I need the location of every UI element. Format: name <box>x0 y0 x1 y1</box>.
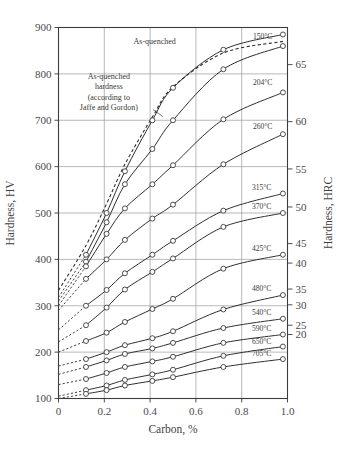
data-point-marker <box>171 85 176 90</box>
series-dashed-extension <box>59 255 86 298</box>
hrc-axis-tick-label: 30 <box>296 299 308 311</box>
data-point-marker <box>150 378 155 383</box>
data-point-marker <box>171 354 176 359</box>
data-point-marker <box>280 191 285 196</box>
data-point-marker <box>104 370 109 375</box>
data-point-marker <box>171 375 176 380</box>
data-point-marker <box>122 377 127 382</box>
data-point-marker <box>221 353 226 358</box>
series-curve <box>86 359 283 394</box>
series-label-layer: 150°C204°C260°C315°C370°C425°C480°C540°C… <box>252 32 272 358</box>
data-point-marker <box>280 332 285 337</box>
series-label-315c: 315°C <box>252 183 271 192</box>
annotation-jaffe-gordon-line: As-quenched <box>88 72 130 81</box>
data-point-marker <box>122 169 127 174</box>
data-point-marker <box>83 303 88 308</box>
y-axis-tick-label: 200 <box>35 346 52 358</box>
data-point-marker <box>171 118 176 123</box>
data-point-marker <box>150 269 155 274</box>
data-point-marker <box>171 238 176 243</box>
data-point-marker <box>221 117 226 122</box>
data-point-marker <box>221 162 226 167</box>
data-point-marker <box>280 44 285 49</box>
data-point-marker <box>104 220 109 225</box>
data-point-marker <box>83 364 88 369</box>
data-point-marker <box>280 293 285 298</box>
x-axis-tick-label: 0 <box>56 405 62 417</box>
y-axis-title: Hardness, HV <box>4 180 17 246</box>
data-point-marker <box>83 252 88 257</box>
hrc-axis-tick-label: 50 <box>296 201 308 213</box>
hrc-axis-tick-label: 60 <box>296 115 308 127</box>
x-axis-tick-label: 1.0 <box>281 405 295 417</box>
series-label-540c: 540°C <box>252 308 271 317</box>
data-point-marker <box>122 364 127 369</box>
series-curve <box>86 34 283 254</box>
series-label-480c: 480°C <box>252 284 271 293</box>
data-point-marker <box>221 224 226 229</box>
data-point-marker <box>221 364 226 369</box>
series-dashed-extension <box>59 262 86 301</box>
data-point-marker <box>280 344 285 349</box>
data-point-marker <box>122 343 127 348</box>
data-point-marker <box>171 329 176 334</box>
data-point-marker <box>83 339 88 344</box>
data-point-marker <box>104 211 109 216</box>
series-label-370c: 370°C <box>252 202 271 211</box>
data-point-marker <box>83 264 88 269</box>
annotation-jaffe-gordon-line: (according to <box>88 93 130 102</box>
data-point-marker <box>150 216 155 221</box>
series-dashed-extension <box>59 379 86 385</box>
series-dashed-extension <box>59 306 86 330</box>
series-dashed-extension <box>59 341 86 352</box>
data-point-marker <box>221 47 226 52</box>
y-axis-tick-label: 100 <box>35 392 52 404</box>
axis-layer: 10020030040050060070080090000.20.40.60.8… <box>4 21 335 435</box>
x-axis-tick-label: 0.8 <box>235 405 249 417</box>
data-point-marker <box>280 32 285 37</box>
data-point-marker <box>171 163 176 168</box>
series-dashed-extension <box>59 394 86 399</box>
series-label-590c: 590°C <box>252 324 271 333</box>
y-axis-tick-label: 800 <box>35 68 52 80</box>
annotation-layer: As-quenchedAs-quenchedhardness(according… <box>80 37 176 117</box>
y-axis-tick-label: 700 <box>35 114 52 126</box>
series-label-425c: 425°C <box>252 244 271 253</box>
series-label-650c: 650°C <box>252 337 271 346</box>
hrc-axis-tick-label: 35 <box>296 283 308 295</box>
y-axis-tick-label: 600 <box>35 160 52 172</box>
data-point-marker <box>104 330 109 335</box>
data-point-marker <box>150 147 155 152</box>
data-point-marker <box>122 287 127 292</box>
data-point-marker <box>280 316 285 321</box>
data-point-marker <box>221 340 226 345</box>
data-point-marker <box>150 118 155 123</box>
data-point-marker <box>171 256 176 261</box>
data-point-marker <box>171 202 176 207</box>
annotation-jaffe-gordon-line: hardness <box>95 82 123 91</box>
x-axis-tick-label: 0.2 <box>97 405 111 417</box>
annotation-as-quenched: As-quenched <box>134 37 176 46</box>
data-point-marker <box>150 252 155 257</box>
y-axis-tick-label: 300 <box>35 300 52 312</box>
series-dashed-extension <box>59 325 86 342</box>
series-curve <box>86 92 283 266</box>
data-point-marker <box>122 271 127 276</box>
data-point-marker <box>104 350 109 355</box>
data-point-marker <box>221 266 226 271</box>
data-point-marker <box>104 388 109 393</box>
data-point-marker <box>122 319 127 324</box>
hrc-axis-tick-label: 25 <box>296 319 308 331</box>
x-axis-title: Carbon, % <box>148 423 198 436</box>
data-point-marker <box>104 257 109 262</box>
data-point-marker <box>83 323 88 328</box>
data-point-marker <box>150 346 155 351</box>
y-axis-tick-label: 500 <box>35 207 52 219</box>
series-label-150c: 150°C <box>253 32 272 41</box>
x-axis-tick-label: 0.4 <box>143 405 157 417</box>
data-point-marker <box>122 351 127 356</box>
chart-canvas: 10020030040050060070080090000.20.40.60.8… <box>0 0 346 449</box>
hardness-vs-carbon-chart: 10020030040050060070080090000.20.40.60.8… <box>0 0 346 449</box>
series-label-260c: 260°C <box>253 122 272 131</box>
data-point-marker <box>221 67 226 72</box>
